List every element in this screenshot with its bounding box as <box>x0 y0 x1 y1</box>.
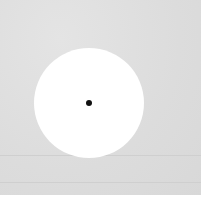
horizontal-line <box>0 182 201 183</box>
center-dot <box>86 100 92 106</box>
grey-background <box>0 0 201 195</box>
